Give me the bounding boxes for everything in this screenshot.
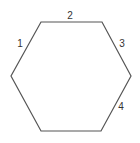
hexagon-canvas [0, 0, 140, 143]
side-label-2: 2 [67, 11, 73, 21]
side-label-4: 4 [118, 102, 124, 112]
side-label-1: 1 [17, 39, 23, 49]
hexagon-shape [11, 22, 131, 131]
side-label-3: 3 [119, 39, 125, 49]
hexagon-diagram: 1 2 3 4 [0, 0, 140, 143]
